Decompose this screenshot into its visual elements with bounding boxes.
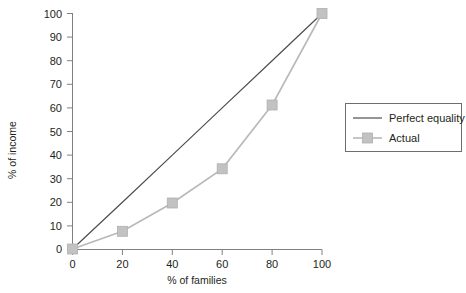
data-point-marker <box>217 164 227 174</box>
chart-legend: Perfect equality Actual <box>346 104 466 152</box>
x-tick-label-20: 20 <box>116 258 128 270</box>
y-tick-label-30: 30 <box>50 173 62 185</box>
x-tick-label-100: 100 <box>313 258 331 270</box>
y-axis-ticks <box>67 14 73 250</box>
y-axis-title: % of income <box>6 121 18 179</box>
chart-canvas: 0 10 20 30 40 50 60 70 80 90 100 0 20 40… <box>0 0 466 293</box>
legend-label-actual: Actual <box>389 132 420 144</box>
legend-box <box>346 104 462 152</box>
y-tick-label-10: 10 <box>50 220 62 232</box>
legend-swatch-actual-marker <box>363 133 373 143</box>
data-point-marker <box>317 9 327 19</box>
data-point-marker <box>167 198 177 208</box>
legend-label-perfect-equality: Perfect equality <box>389 112 465 124</box>
x-tick-label-0: 0 <box>69 258 75 270</box>
data-point-marker <box>68 244 78 254</box>
y-tick-label-100: 100 <box>44 8 62 20</box>
y-tick-label-70: 70 <box>50 78 62 90</box>
y-axis-tick-labels: 0 10 20 30 40 50 60 70 80 90 100 <box>44 8 62 256</box>
y-tick-label-50: 50 <box>50 126 62 138</box>
series-line-perfect-equality <box>73 14 323 250</box>
y-tick-label-60: 60 <box>50 102 62 114</box>
x-tick-label-80: 80 <box>266 258 278 270</box>
y-tick-label-80: 80 <box>50 55 62 67</box>
x-tick-label-40: 40 <box>166 258 178 270</box>
y-tick-label-40: 40 <box>50 149 62 161</box>
y-tick-label-0: 0 <box>56 243 62 255</box>
y-tick-label-20: 20 <box>50 196 62 208</box>
y-tick-label-90: 90 <box>50 31 62 43</box>
data-point-marker <box>117 226 127 236</box>
x-tick-label-60: 60 <box>216 258 228 270</box>
x-axis-ticks <box>73 250 323 256</box>
x-axis-title: % of families <box>167 274 227 286</box>
x-axis-tick-labels: 0 20 40 60 80 100 <box>69 258 331 270</box>
lorenz-curve-figure: 0 10 20 30 40 50 60 70 80 90 100 0 20 40… <box>0 0 466 293</box>
data-point-marker <box>267 100 277 110</box>
